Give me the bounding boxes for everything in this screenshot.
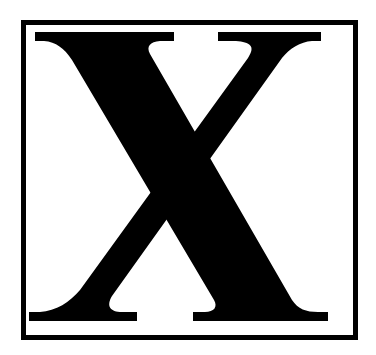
serif-x-letter-icon [0, 0, 376, 355]
